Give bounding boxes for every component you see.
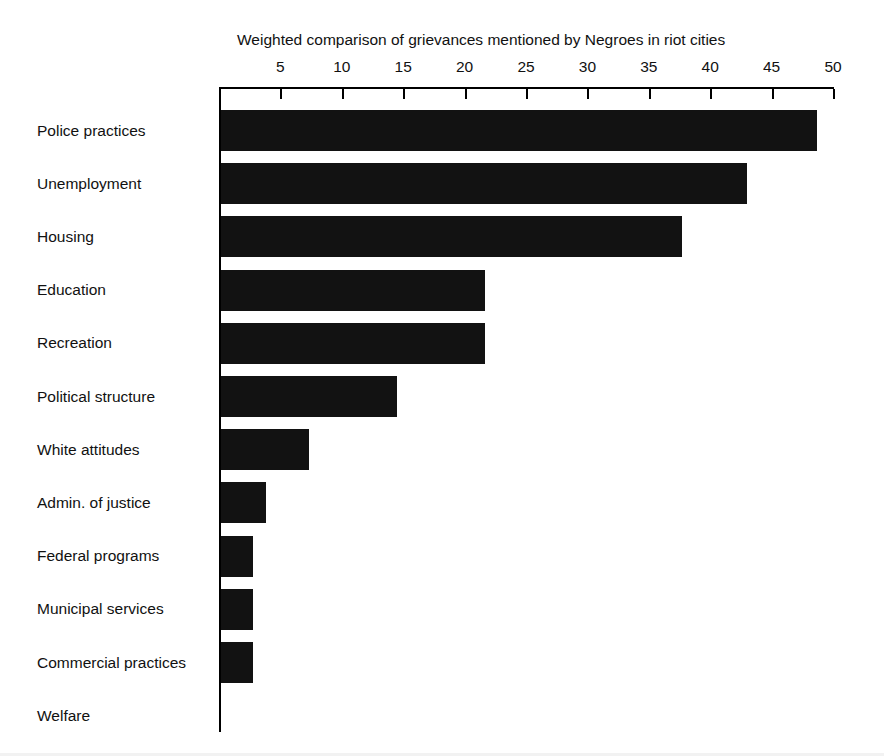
x-tick-mark-35 — [649, 89, 651, 99]
category-label-welfare: Welfare — [37, 707, 90, 725]
category-label-recreation: Recreation — [37, 334, 112, 352]
x-tick-mark-40 — [710, 89, 712, 99]
bar-row: Municipal services — [0, 589, 884, 630]
x-tick-mark-30 — [587, 89, 589, 99]
category-label-political-structure: Political structure — [37, 388, 155, 406]
category-label-municipal-services: Municipal services — [37, 600, 164, 618]
x-tick-mark-25 — [526, 89, 528, 99]
plot-area: Police practicesUnemploymentHousingEduca… — [0, 0, 884, 756]
bar-row: Education — [0, 270, 884, 311]
bar — [221, 642, 253, 683]
bar-row: Admin. of justice — [0, 482, 884, 523]
bar-row: Police practices — [0, 110, 884, 151]
bar — [221, 429, 309, 470]
category-label-education: Education — [37, 281, 106, 299]
bar-row: White attitudes — [0, 429, 884, 470]
bar — [221, 270, 485, 311]
category-label-unemployment: Unemployment — [37, 175, 141, 193]
x-tick-mark-10 — [342, 89, 344, 99]
bar-row: Unemployment — [0, 163, 884, 204]
category-label-commercial-practices: Commercial practices — [37, 654, 186, 672]
x-tick-mark-20 — [465, 89, 467, 99]
x-tick-mark-15 — [403, 89, 405, 99]
category-label-housing: Housing — [37, 228, 94, 246]
x-tick-mark-45 — [772, 89, 774, 99]
bar — [221, 110, 817, 151]
category-label-federal-programs: Federal programs — [37, 547, 159, 565]
bar — [221, 323, 485, 364]
bar-chart: Weighted comparison of grievances mentio… — [0, 0, 884, 756]
bar — [221, 536, 253, 577]
bar — [221, 376, 397, 417]
category-label-white-attitudes: White attitudes — [37, 441, 140, 459]
category-label-admin-of-justice: Admin. of justice — [37, 494, 151, 512]
bar-row: Federal programs — [0, 536, 884, 577]
bar — [221, 589, 253, 630]
bar — [221, 216, 682, 257]
bar-row: Welfare — [0, 695, 884, 736]
x-tick-mark-50 — [833, 89, 835, 99]
bar — [221, 482, 266, 523]
bar — [221, 163, 747, 204]
bar-row: Housing — [0, 216, 884, 257]
x-tick-mark-5 — [280, 89, 282, 99]
category-label-police-practices: Police practices — [37, 122, 146, 140]
bar-row: Political structure — [0, 376, 884, 417]
bar-row: Recreation — [0, 323, 884, 364]
bar-row: Commercial practices — [0, 642, 884, 683]
